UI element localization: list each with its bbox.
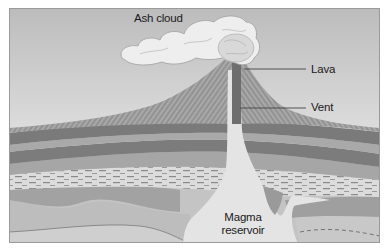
vent-pipe <box>232 60 241 124</box>
volcano-diagram <box>0 0 388 250</box>
vent-label: Vent <box>311 101 333 114</box>
magma-reservoir-label: Magma reservoir <box>214 211 272 237</box>
magma-label-line2: reservoir <box>214 224 272 237</box>
lava-label: Lava <box>311 63 335 76</box>
ash-cloud-label: Ash cloud <box>134 12 183 25</box>
magma-label-line1: Magma <box>214 211 272 224</box>
